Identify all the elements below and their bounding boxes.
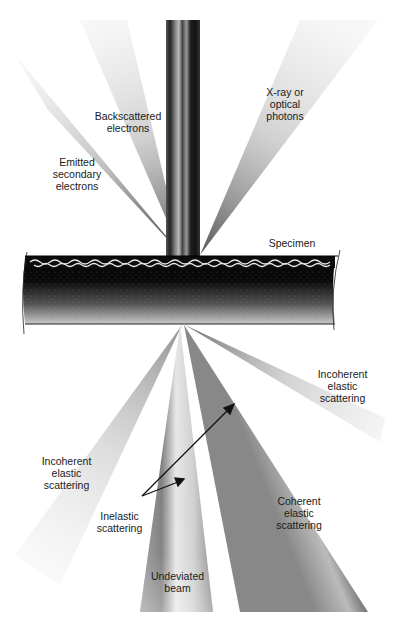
label-coherent-elastic: Coherent elastic scattering — [268, 495, 330, 531]
label-backscattered-electrons: Backscattered electrons — [88, 110, 168, 134]
specimen — [23, 250, 340, 334]
label-incoherent-elastic-left: Incoherent elastic scattering — [34, 455, 99, 491]
xray-photons-fan — [200, 20, 378, 255]
interaction-diagram: Backscattered electrons X-ray or optical… — [0, 0, 395, 624]
diagram-graphics — [0, 0, 395, 624]
label-undeviated-beam: Undeviated beam — [145, 570, 210, 594]
label-incoherent-elastic-right: Incoherent elastic scattering — [310, 368, 375, 404]
label-inelastic-scattering: Inelastic scattering — [92, 510, 147, 534]
label-xray-optical-photons: X-ray or optical photons — [255, 86, 315, 122]
label-secondary-electrons: Emitted secondary electrons — [42, 156, 112, 192]
incident-beam — [166, 20, 200, 258]
label-specimen: Specimen — [262, 237, 322, 249]
